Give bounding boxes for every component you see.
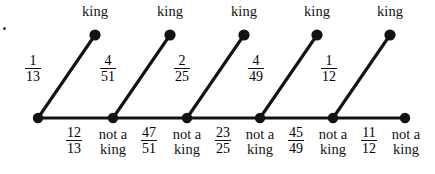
baseline-node-2: [108, 113, 118, 123]
king-probability-2: 4 51: [100, 54, 116, 84]
baseline-node-5: [328, 113, 338, 123]
king-node-4: [311, 29, 322, 40]
king-label-2: king: [157, 4, 183, 19]
baseline-node-1: [33, 113, 43, 123]
not-a-king-label-3: not aking: [246, 127, 275, 157]
king-branch-4: [260, 35, 317, 118]
king-branch-5: [333, 35, 390, 118]
king-branch-3: [187, 35, 244, 118]
probability-tree-figure: king king king king king not aking not a…: [0, 0, 435, 174]
king-label-3: king: [231, 4, 257, 19]
not-king-probability-3: 23 25: [215, 126, 231, 156]
baseline-node-3: [182, 113, 192, 123]
king-probability-5: 1 12: [321, 54, 337, 84]
king-label-4: king: [304, 4, 330, 19]
not-king-probability-5: 11 12: [361, 126, 377, 156]
not-a-king-label-4: not aking: [319, 127, 348, 157]
baseline-node-4: [255, 113, 265, 123]
king-probability-3: 2 25: [174, 54, 190, 84]
king-probability-1: 1 13: [25, 54, 41, 84]
not-king-probability-2: 47 51: [141, 126, 157, 156]
king-label-5: king: [377, 4, 403, 19]
king-node-3: [238, 29, 249, 40]
not-king-probability-4: 45 49: [288, 126, 304, 156]
king-node-1: [89, 29, 100, 40]
king-node-5: [384, 29, 395, 40]
not-a-king-label-2: not aking: [173, 127, 202, 157]
scan-artifact-speck: [3, 27, 6, 30]
not-a-king-label-5: not aking: [392, 127, 421, 157]
baseline-node-6: [400, 113, 410, 123]
not-a-king-label-1: not aking: [99, 127, 128, 157]
king-branch-1: [38, 35, 95, 118]
not-king-probability-1: 12 13: [66, 126, 82, 156]
king-probability-4: 4 49: [248, 54, 264, 84]
king-node-2: [164, 29, 175, 40]
king-label-1: king: [82, 4, 108, 19]
king-branch-2: [113, 35, 170, 118]
